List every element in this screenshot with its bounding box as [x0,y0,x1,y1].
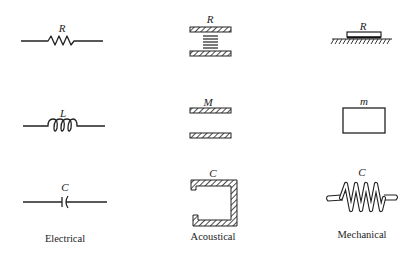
electrical-inductance-symbol: L [59,107,66,119]
acoustical-compliance-symbol: C [209,167,217,179]
electrical-capacitor: C [23,181,107,208]
acoustical-mass-symbol: M [202,96,213,108]
electrical-inductor: L [23,107,105,131]
friction-block [347,32,381,37]
capacitor-plates-icon [23,196,107,208]
screen-lines-icon [203,36,218,48]
electrical-resistance-symbol: R [58,22,66,34]
mass-rectangle [343,108,385,133]
spring-coil-icon [327,184,398,210]
mechanical-mass-symbol: m [360,95,368,107]
inductor-coil-icon [23,119,105,131]
column-label-electrical: Electrical [45,233,85,244]
column-label-acoustical: Acoustical [191,231,236,242]
mechanical-mass-block: m [343,95,385,133]
hatched-plate-bottom [190,51,231,56]
hatched-wall-bottom [190,133,231,138]
mechanical-friction-damper: R [331,20,392,44]
hatched-wall-top [190,108,231,113]
mechanical-compliance-symbol: C [358,166,366,178]
column-label-mechanical: Mechanical [338,229,387,240]
acoustical-resistance-screen: R [190,13,231,56]
acoustical-resistance-symbol: R [206,13,214,25]
electrical-capacitance-symbol: C [61,181,69,193]
analogous-elements-diagram: R R R [0,0,415,255]
hatched-plate-top [190,27,231,32]
mechanical-resistance-symbol: R [359,20,367,32]
resistor-zigzag-icon [21,36,103,45]
acoustical-mass-tube: M [190,96,231,138]
ground-hatch-icon [331,39,392,44]
acoustical-cavity: C [191,167,237,226]
cavity-wall-icon [191,180,237,226]
mechanical-spring: C [327,166,398,210]
electrical-resistor: R [21,22,103,45]
